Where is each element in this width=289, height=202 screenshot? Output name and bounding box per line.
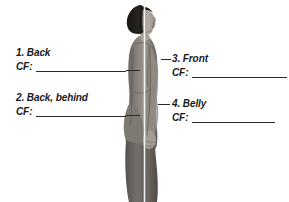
annotation-4-title: 4. Belly [172,98,275,109]
annotation-3-front: 3. Front CF: [172,53,287,78]
annotation-3-title: 3. Front [172,53,287,64]
annotation-3-cf-row: CF: [172,67,287,78]
annotation-2-cf-label: CF: [16,106,32,117]
annotation-1-cf-row: CF: [16,61,126,72]
annotation-1-title: 1. Back [16,47,126,58]
annotation-2-title: 2. Back, behind [16,92,126,103]
leader-line-4 [158,104,170,105]
leader-line-1 [126,70,140,71]
annotation-4-belly: 4. Belly CF: [172,98,275,123]
annotation-1-back: 1. Back CF: [16,47,126,72]
leader-line-3 [161,59,171,60]
leader-line-2 [126,115,140,116]
annotation-2-cf-blank[interactable] [36,106,126,117]
annotation-2-cf-row: CF: [16,106,126,117]
annotation-1-cf-blank[interactable] [36,61,126,72]
annotation-1-cf-label: CF: [16,61,32,72]
annotation-4-cf-blank[interactable] [192,112,275,123]
annotation-2-back-behind: 2. Back, behind CF: [16,92,126,117]
worksheet-page: 1. Back CF: 2. Back, behind CF: 3. Front… [0,0,289,202]
annotation-4-cf-row: CF: [172,112,275,123]
annotation-3-cf-label: CF: [172,67,188,78]
annotation-3-cf-blank[interactable] [192,67,287,78]
head [127,5,156,34]
annotation-4-cf-label: CF: [172,112,188,123]
